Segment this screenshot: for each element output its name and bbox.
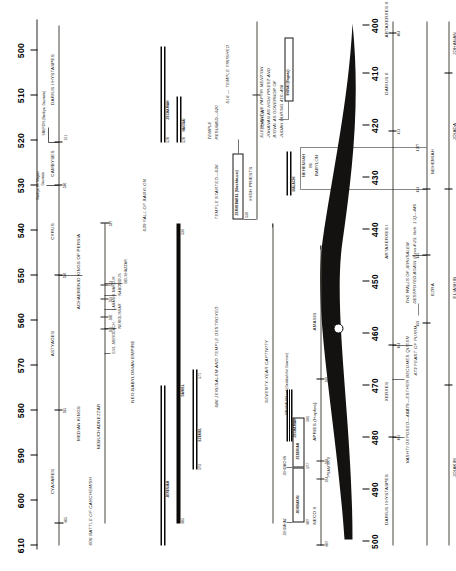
- tick-joiakim-end: [444, 384, 452, 385]
- tick-joiada-end: [444, 72, 452, 73]
- joiakim-label: JOIAKIM: [452, 457, 456, 476]
- joiada-label: JOIADA: [452, 122, 456, 139]
- nehemiah-label: NEHEMIAH: [430, 148, 434, 173]
- johanan-label: JOHANAN: [452, 32, 456, 55]
- tick-eliashib-end: [444, 188, 452, 189]
- eliashib-label: ELIASHIB: [452, 276, 456, 298]
- ezra-label: EZRA: [430, 283, 434, 296]
- leaders-line: [426, 21, 427, 545]
- priests-lower-line: [448, 21, 449, 545]
